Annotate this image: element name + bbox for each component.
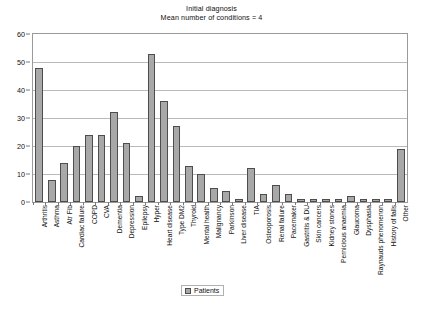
chart-legend: Patients xyxy=(181,285,224,296)
bar-slot xyxy=(247,34,255,202)
x-axis-tick-mark xyxy=(145,202,146,205)
x-axis-tick-mark xyxy=(58,202,59,205)
x-axis-tick-mark xyxy=(245,202,246,205)
bar-slot xyxy=(347,34,355,202)
y-axis-tick-label: 60 xyxy=(17,30,25,39)
x-axis-tick-label: Heart disease xyxy=(167,205,174,246)
bar-slot xyxy=(310,34,318,202)
bar[interactable] xyxy=(322,199,330,202)
y-axis-tick-label: 0 xyxy=(21,198,25,207)
x-axis-tick-mark xyxy=(183,202,184,205)
y-axis: 0102030405060 xyxy=(0,33,30,203)
bar[interactable] xyxy=(210,188,218,202)
x-axis-tick-mark xyxy=(108,202,109,205)
x-axis-tick-mark xyxy=(257,202,258,205)
y-axis-tick-mark xyxy=(26,146,30,147)
bar[interactable] xyxy=(384,199,392,202)
page-title: Initial diagnosis xyxy=(0,4,423,13)
bar[interactable] xyxy=(85,135,93,202)
y-axis-tick-label: 50 xyxy=(17,58,25,67)
bar[interactable] xyxy=(360,199,368,202)
x-axis-tick-mark xyxy=(395,202,396,205)
bar[interactable] xyxy=(98,135,106,202)
x-axis-tick-label: Osteoporosis xyxy=(266,205,273,244)
bar-slot xyxy=(297,34,305,202)
legend-swatch-patients xyxy=(185,288,191,294)
x-axis-tick-label: Arthritis xyxy=(42,205,49,227)
bar-slot xyxy=(110,34,118,202)
bar-slot xyxy=(73,34,81,202)
x-axis-tick-mark xyxy=(357,202,358,205)
y-axis-tick-label: 20 xyxy=(17,142,25,151)
legend-label-patients: Patients xyxy=(194,287,219,294)
x-axis-tick-mark xyxy=(270,202,271,205)
bar[interactable] xyxy=(35,68,43,202)
bar-slot xyxy=(98,34,106,202)
chart-title-block: Initial diagnosis Mean number of conditi… xyxy=(0,4,423,22)
x-axis-tick-label: Kidney stones xyxy=(329,205,336,246)
bar[interactable] xyxy=(285,194,293,202)
bar[interactable] xyxy=(123,143,131,202)
x-axis-tick-mark xyxy=(95,202,96,205)
bar[interactable] xyxy=(310,199,318,202)
x-axis-tick-mark xyxy=(208,202,209,205)
y-axis-tick-mark xyxy=(26,202,30,203)
x-axis-tick-mark xyxy=(70,202,71,205)
x-axis-tick-label: Dementia xyxy=(117,205,124,233)
y-axis-tick-mark xyxy=(26,174,30,175)
bar-slot xyxy=(35,34,43,202)
x-axis-tick-label: Depression xyxy=(129,205,136,238)
x-axis-tick-label: Malignancy xyxy=(216,205,223,238)
bar-slot xyxy=(148,34,156,202)
x-axis-tick-label: Type DM2 xyxy=(179,205,186,235)
bar[interactable] xyxy=(235,199,243,202)
bar[interactable] xyxy=(335,199,343,202)
y-axis-tick-mark xyxy=(26,62,30,63)
x-axis-tick-mark xyxy=(220,202,221,205)
x-axis-tick-mark xyxy=(33,202,34,205)
x-axis-tick-mark xyxy=(370,202,371,205)
bar[interactable] xyxy=(160,101,168,202)
x-axis-tick-mark xyxy=(170,202,171,205)
x-axis-tick-mark xyxy=(295,202,296,205)
x-axis-tick-mark xyxy=(282,202,283,205)
x-axis-tick-label: History of falls xyxy=(391,205,398,246)
bar[interactable] xyxy=(347,196,355,202)
x-axis-tick-label: CVA xyxy=(104,205,111,218)
bar-slot xyxy=(360,34,368,202)
y-axis-tick-mark xyxy=(26,90,30,91)
bar-slot xyxy=(85,34,93,202)
x-axis-tick-label: Glaucoma xyxy=(354,205,361,235)
x-axis-tick-mark xyxy=(382,202,383,205)
x-axis-tick-mark xyxy=(45,202,46,205)
bar[interactable] xyxy=(372,199,380,202)
y-axis-tick-label: 10 xyxy=(17,170,25,179)
bar-slot xyxy=(123,34,131,202)
bar[interactable] xyxy=(148,54,156,202)
bar[interactable] xyxy=(173,126,181,202)
x-axis-tick-label: Gastritis & DU xyxy=(304,205,311,247)
bar[interactable] xyxy=(222,191,230,202)
bar[interactable] xyxy=(247,168,255,202)
bar[interactable] xyxy=(272,185,280,202)
x-axis-tick-label: Dysphasia xyxy=(366,205,373,236)
bar-slot xyxy=(160,34,168,202)
bar[interactable] xyxy=(135,196,143,202)
x-axis-tick-mark xyxy=(307,202,308,205)
bar[interactable] xyxy=(260,194,268,202)
y-axis-tick-mark xyxy=(26,34,30,35)
x-axis-tick-mark xyxy=(232,202,233,205)
bar[interactable] xyxy=(73,146,81,202)
x-axis-tick-mark xyxy=(195,202,196,205)
bar[interactable] xyxy=(297,199,305,202)
bar[interactable] xyxy=(60,163,68,202)
bar[interactable] xyxy=(110,112,118,202)
x-axis-tick-label: Thyroid xyxy=(191,205,198,227)
x-axis-tick-label: Cardiac failure xyxy=(79,205,86,248)
bar-slot xyxy=(210,34,218,202)
bar[interactable] xyxy=(48,180,56,202)
bar[interactable] xyxy=(197,174,205,202)
bar[interactable] xyxy=(397,149,405,202)
x-axis: ArthritisAsthmaAtr FibCardiac failureCOP… xyxy=(33,205,407,280)
bar[interactable] xyxy=(185,166,193,202)
